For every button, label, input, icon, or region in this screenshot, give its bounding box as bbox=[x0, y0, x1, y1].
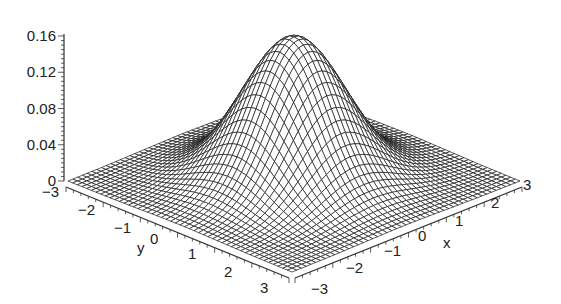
y-tick-label: 3 bbox=[260, 279, 268, 296]
y-tick-label: −1 bbox=[114, 219, 131, 236]
x-tick-label: −3 bbox=[311, 280, 328, 297]
x-axis-label: x bbox=[443, 234, 451, 251]
surface-plot: −3−2−101233210−1−2−300.040.080.120.16 x … bbox=[0, 0, 561, 304]
z-tick-label: 0.08 bbox=[27, 100, 56, 117]
x-tick-label: 3 bbox=[523, 176, 531, 193]
z-tick-label: 0.04 bbox=[27, 136, 56, 153]
x-tick-label: 1 bbox=[455, 212, 463, 229]
z-tick-label: 0.16 bbox=[27, 27, 56, 44]
x-tick-label: 2 bbox=[491, 194, 499, 211]
x-tick-label: 0 bbox=[418, 227, 426, 244]
mesh-surface bbox=[68, 35, 520, 272]
z-tick-label: 0 bbox=[48, 172, 56, 189]
x-tick-label: −2 bbox=[346, 259, 363, 276]
y-tick-label: 0 bbox=[150, 230, 158, 247]
x-tick-label: −1 bbox=[384, 242, 401, 259]
y-tick-label: −2 bbox=[78, 201, 95, 218]
y-tick-label: 2 bbox=[224, 263, 232, 280]
y-tick-label: 1 bbox=[188, 245, 196, 262]
z-tick-label: 0.12 bbox=[27, 63, 56, 80]
y-axis-label: y bbox=[137, 239, 145, 256]
